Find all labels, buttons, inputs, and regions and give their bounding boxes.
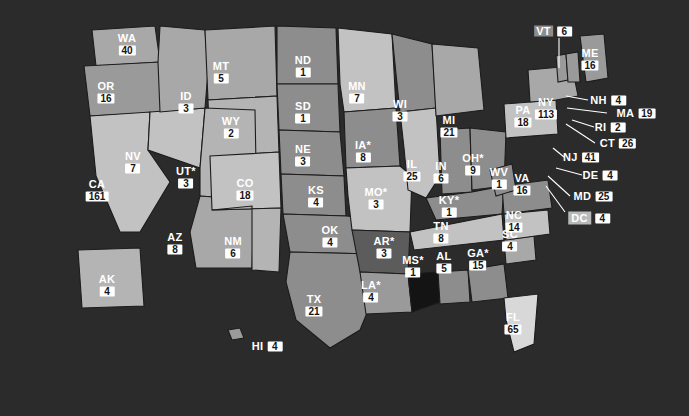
state-shape-mt[interactable] (205, 26, 277, 100)
us-choropleth-map: WA40OR16CA161NV7ID3MT5WY2UT*3AZ8CO18NM6N… (0, 0, 689, 416)
state-shape-ak[interactable] (78, 248, 144, 308)
state-shape-wi[interactable] (392, 34, 436, 112)
state-shape-in[interactable] (440, 128, 472, 194)
state-shape-ne[interactable] (279, 130, 344, 176)
state-shape-ga[interactable] (468, 264, 508, 302)
state-shape-ar[interactable] (352, 230, 410, 274)
state-shape-or[interactable] (84, 62, 164, 116)
callout-leader-nj (553, 148, 564, 157)
callout-leader-ct (566, 124, 595, 143)
state-shape-mo[interactable] (346, 166, 412, 232)
state-shape-mi[interactable] (432, 44, 484, 116)
state-shape-wa[interactable] (92, 26, 160, 66)
state-shape-sd[interactable] (277, 84, 340, 132)
state-shape-nv[interactable] (148, 108, 205, 168)
state-shape-ms[interactable] (408, 272, 440, 312)
map-svg (0, 0, 689, 416)
state-shape-al[interactable] (438, 270, 470, 304)
state-shape-pa[interactable] (504, 100, 558, 138)
state-shape-nd[interactable] (277, 26, 338, 84)
callout-leader-ri (572, 120, 594, 127)
state-shape-ks[interactable] (281, 174, 346, 216)
state-shape-sc[interactable] (504, 236, 536, 264)
callout-leader-de (556, 168, 582, 175)
state-shape-co[interactable] (210, 152, 281, 210)
state-shape-tn[interactable] (410, 214, 504, 250)
state-shape-hi[interactable] (228, 328, 244, 340)
state-shape-id[interactable] (158, 26, 208, 112)
callout-leader-ma (567, 108, 607, 113)
state-shape-me[interactable] (580, 34, 608, 82)
state-shape-la[interactable] (360, 272, 412, 314)
state-shape-nc[interactable] (504, 210, 550, 240)
state-shape-fl[interactable] (504, 294, 538, 352)
state-shape-ia[interactable] (344, 108, 400, 168)
state-shape-mn[interactable] (338, 28, 396, 112)
state-shape-nh[interactable] (566, 52, 580, 82)
